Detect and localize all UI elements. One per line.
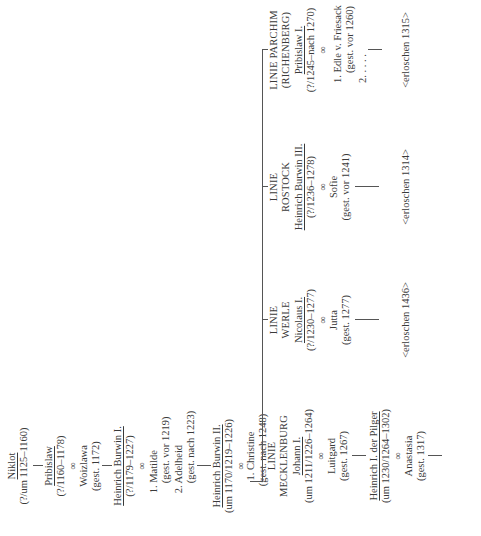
person-name: Johann I. [291, 409, 303, 503]
descent-line [352, 455, 366, 456]
person-name: Nicolaus I. [293, 289, 305, 351]
marriage-symbol: ∞ [68, 435, 78, 496]
marriage-symbol: ∞ [318, 8, 328, 92]
descent-line [355, 319, 379, 320]
descent-line [197, 465, 211, 466]
line-label: LINIE [266, 409, 278, 503]
person-dates: (um 1211/1226–1264) [303, 409, 315, 503]
spouse-name: Jutta [328, 289, 340, 351]
descent-line [33, 465, 43, 466]
line-label: ROSTOCK [280, 144, 292, 231]
spouse-dates: (gest. 1267) [338, 409, 350, 503]
extinct-note: <erloschen 1315> [400, 12, 412, 88]
person-dates: (?/um 1125–1160) [18, 427, 30, 504]
spouse-name: Anastasia [403, 409, 415, 503]
spouse-name: Woizlawa [78, 435, 90, 496]
person-dates: (?/1245–nach 1270) [305, 8, 317, 92]
line-parchim: LINIE PARCHIM (RICHENBERG) Pribislaw I. … [268, 8, 328, 92]
person-dates: (um 1230/1264–1302) [380, 409, 392, 503]
genealogy-chart: Niklot (?/um 1125–1160) Pribislaw (?/116… [0, 0, 481, 536]
person-heinrich-burwin-2: Heinrich Burwin II. (um 1170/1219–1226) … [211, 419, 246, 513]
extinct-note: <erloschen 1314> [400, 149, 412, 225]
extinct-note: <erloschen 1436> [400, 282, 412, 358]
branch-bar [262, 50, 263, 482]
line-mecklenburg: LINIE MECKLENBURG Johann I. (um 1211/122… [266, 409, 350, 503]
person-name: Pribislaw I. [293, 8, 305, 92]
spouse-name: 1. Edle v. Friesack [332, 5, 344, 83]
spouse-dates: (gest. nach 1223) [185, 411, 197, 494]
line-label: LINIE PARCHIM [268, 8, 280, 92]
spouse-dates: (gest. 1277) [340, 289, 352, 351]
spouse-name: Luitgard [326, 409, 338, 503]
person-dates: (um 1170/1219–1226) [223, 419, 235, 513]
marriage-symbol: ∞ [137, 426, 147, 506]
spouse-name: 2. Adelheid [173, 411, 185, 494]
person-name: Heinrich Burwin III. [293, 144, 305, 231]
person-dates: (?/1160–1178) [55, 435, 67, 496]
person-dates: (?/1179–1227) [124, 426, 136, 506]
marriage-symbol: ∞ [318, 289, 328, 351]
spouse-name: 1. Matilde [148, 411, 160, 494]
descent-line [355, 186, 379, 187]
line-label: MECKLENBURG [278, 409, 290, 503]
line-label: LINIE [268, 144, 280, 231]
descent-line [102, 465, 112, 466]
spouses-heinrich-burwin-1: 1. Matilde (gest. vor 1219) 2. Adelheid … [148, 411, 198, 494]
person-name: Heinrich I. der Pilger [368, 409, 380, 503]
line-werle: LINIE WERLE Nicolaus I. (?/1230–1277) ∞ … [268, 289, 352, 351]
person-heinrich-burwin-1: Heinrich Burwin I. (?/1179–1227) ∞ [112, 426, 147, 506]
person-dates: (?/1236–1278) [305, 144, 317, 231]
spouse-dates: (gest. vor 1260) [344, 5, 356, 83]
spouse-dates: (gest. vor 1219) [160, 411, 172, 494]
person-name: Heinrich Burwin II. [211, 419, 223, 513]
spouses-pribislaw-1: 1. Edle v. Friesack (gest. vor 1260) 2. … [332, 5, 369, 83]
person-heinrich-1-der-pilger: Heinrich I. der Pilger (um 1230/1264–130… [368, 409, 428, 503]
person-dates: (?/1230–1277) [305, 289, 317, 351]
spouse-dates: (gest. 1317) [415, 409, 427, 503]
person-name: Pribislaw [43, 435, 55, 496]
descent-line [368, 49, 382, 50]
spouse-name: 1. Christine [245, 414, 257, 499]
person-name: Niklot [6, 427, 18, 504]
person-pribislaw: Pribislaw (?/1160–1178) ∞ Woizlawa (gest… [43, 435, 103, 496]
line-rostock: LINIE ROSTOCK Heinrich Burwin III. (?/12… [268, 144, 352, 231]
spouse-name: Sofie [328, 144, 340, 231]
descent-line [250, 481, 262, 482]
marriage-symbol: ∞ [316, 409, 326, 503]
spouse-name: 2. . . . . [357, 5, 369, 83]
spouse-dates: (gest. vor 1241) [340, 144, 352, 231]
marriage-symbol: ∞ [393, 409, 403, 503]
line-label: WERLE [280, 289, 292, 351]
descent-line [428, 455, 442, 456]
line-label: (RICHENBERG) [280, 8, 292, 92]
marriage-symbol: ∞ [318, 144, 328, 231]
person-name: Heinrich Burwin I. [112, 426, 124, 506]
spouse-dates: (gest. 1172) [90, 435, 102, 496]
line-label: LINIE [268, 289, 280, 351]
person-niklot: Niklot (?/um 1125–1160) [6, 427, 31, 504]
